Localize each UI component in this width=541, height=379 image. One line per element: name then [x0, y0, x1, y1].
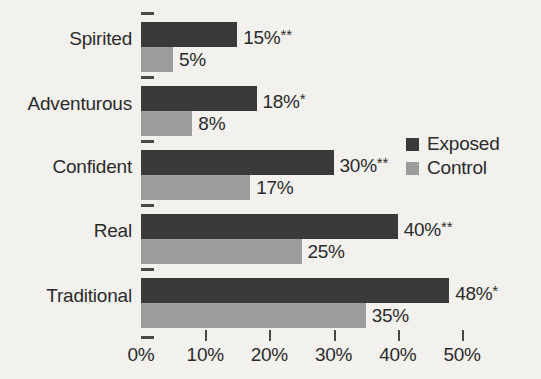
legend-label-exposed: Exposed: [427, 133, 500, 155]
category-label-text: Adventurous: [0, 93, 132, 115]
bar-value-exposed-spirited: 15%**: [243, 22, 292, 47]
x-axis-tick-label-10: 10%: [175, 344, 235, 366]
legend: Exposed Control: [406, 132, 536, 180]
y-axis-tick-0: [141, 12, 154, 15]
x-axis-tick-label-0: 0%: [111, 344, 171, 366]
bar-value-control-confident: 17%: [256, 175, 293, 200]
bar-exposed-adventurous: [141, 86, 257, 111]
legend-label-control: Control: [427, 157, 487, 179]
legend-swatch-control: [406, 162, 419, 175]
y-axis-tick-3: [141, 204, 154, 207]
x-axis-tick-40: [398, 330, 400, 341]
bar-chart: Spirited Adventurous Confident Real Trad…: [0, 0, 541, 379]
bar-value-control-spirited: 5%: [179, 47, 206, 72]
category-label-1: Adventurous: [0, 93, 132, 119]
bar-control-traditional: [141, 303, 366, 328]
bar-exposed-confident: [141, 150, 334, 175]
y-axis-tick-1: [141, 76, 154, 79]
legend-item-control: Control: [406, 156, 536, 180]
category-label-text: Traditional: [0, 285, 132, 307]
plot-area: 15%** 5% 18%* 8% 30%** 17% 40%** 25%: [141, 0, 541, 379]
bar-value-exposed-confident: 30%**: [340, 150, 389, 175]
category-label-3: Real: [0, 220, 132, 246]
bar-exposed-real: [141, 214, 398, 239]
x-axis-tick-20: [269, 330, 271, 341]
bar-value-exposed-traditional: 48%*: [455, 278, 498, 303]
x-axis-origin-mark: [141, 336, 154, 339]
category-label-0: Spirited: [0, 28, 132, 54]
bar-value-exposed-real: 40%**: [404, 214, 453, 239]
x-axis-tick-label-20: 20%: [239, 344, 299, 366]
bar-exposed-traditional: [141, 278, 449, 303]
bar-value-exposed-adventurous: 18%*: [263, 86, 306, 111]
category-label-text: Spirited: [0, 28, 132, 50]
category-label-2: Confident: [0, 156, 132, 182]
bar-value-control-traditional: 35%: [372, 303, 409, 328]
x-axis-tick-label-40: 40%: [368, 344, 428, 366]
x-axis-tick-label-50: 50%: [432, 344, 492, 366]
bar-control-spirited: [141, 47, 173, 72]
category-label-4: Traditional: [0, 285, 132, 311]
category-label-text: Confident: [0, 156, 132, 178]
x-axis-tick-10: [205, 330, 207, 341]
x-axis-tick-30: [334, 330, 336, 341]
y-axis-tick-2: [141, 140, 154, 143]
x-axis-tick-50: [462, 330, 464, 341]
legend-swatch-exposed: [406, 138, 419, 151]
bar-value-control-real: 25%: [308, 239, 345, 264]
bar-control-confident: [141, 175, 250, 200]
bar-control-real: [141, 239, 302, 264]
legend-item-exposed: Exposed: [406, 132, 536, 156]
bar-exposed-spirited: [141, 22, 237, 47]
category-label-text: Real: [0, 220, 132, 242]
bar-value-control-adventurous: 8%: [198, 111, 225, 136]
bar-control-adventurous: [141, 111, 192, 136]
x-axis-tick-label-30: 30%: [304, 344, 364, 366]
y-axis-tick-4: [141, 268, 154, 271]
